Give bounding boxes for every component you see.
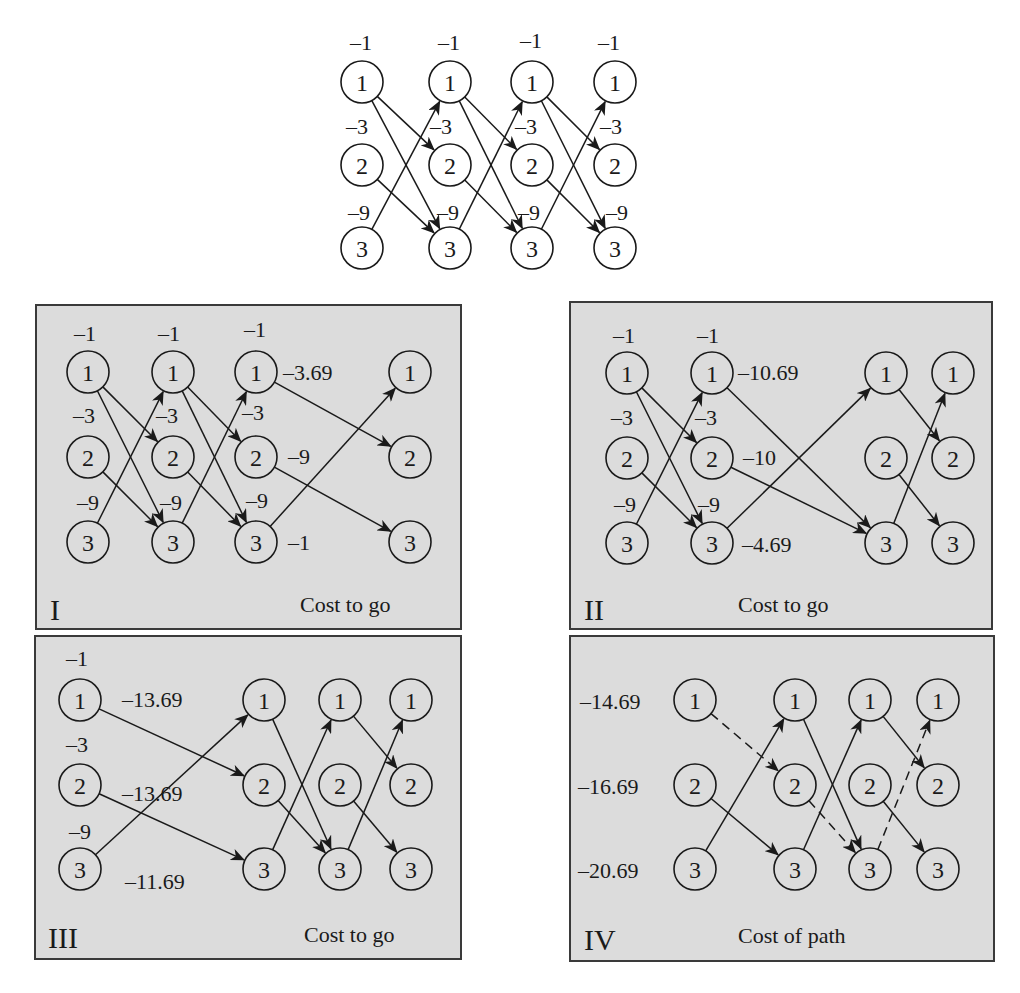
cost-label: –3 — [345, 114, 368, 139]
transition-edge — [547, 180, 600, 233]
cost-label: –1 — [73, 321, 96, 346]
node-label: 2 — [82, 445, 94, 471]
cost-label: –13.69 — [121, 687, 183, 712]
state-node: 2 — [511, 144, 553, 186]
panel-number: IV — [584, 923, 616, 956]
transition-edge — [377, 179, 434, 232]
node-label: 1 — [621, 361, 633, 387]
cost-label: –3 — [694, 405, 717, 430]
panel-frame — [36, 305, 461, 629]
trellis-diagram-figure: –1–1–1–1–3–3–3–3–9–9–9–9123123123123 –1–… — [0, 0, 1020, 993]
node-label: 1 — [167, 360, 179, 386]
node-label: 3 — [405, 857, 417, 883]
cost-label: –3 — [155, 403, 178, 428]
panel-caption: Cost to go — [304, 922, 394, 947]
transition-edge — [465, 97, 517, 149]
cost-label: –1 — [696, 323, 719, 348]
cost-label: –9 — [245, 488, 268, 513]
node-label: 3 — [706, 531, 718, 557]
cost-label: –9 — [347, 200, 370, 225]
cost-label: –11.69 — [124, 869, 185, 894]
trellis-panels: –1–1–1–3–3–3–9–9–9–3.69–9–1123123123123I… — [35, 302, 994, 961]
node-label: 2 — [167, 445, 179, 471]
cost-label: –3 — [241, 400, 264, 425]
node-label: 1 — [864, 688, 876, 714]
node-label: 1 — [405, 688, 417, 714]
node-label: 1 — [334, 688, 346, 714]
transition-edge — [377, 96, 434, 149]
node-label: 3 — [404, 530, 416, 556]
panel-IV: –14.69–16.69–20.69123123123123IVCost of … — [570, 636, 994, 961]
transition-edge — [547, 97, 600, 150]
panel-frame — [570, 302, 992, 629]
panel-number: II — [584, 593, 604, 626]
value-labels: –1–1–1–1–3–3–3–3–9–9–9–9 — [345, 28, 628, 225]
node-label: 2 — [864, 773, 876, 799]
cost-label: –3 — [429, 114, 452, 139]
node-label: 2 — [621, 446, 633, 472]
node-label: 1 — [789, 688, 801, 714]
state-node: 3 — [429, 227, 471, 269]
node-group: 123123123123 — [341, 61, 636, 269]
cost-label: –1 — [612, 323, 635, 348]
node-label: 3 — [621, 531, 633, 557]
cost-label: –9 — [613, 492, 636, 517]
cost-label: –9 — [159, 490, 182, 515]
cost-label: –1 — [157, 321, 180, 346]
node-label: 3 — [609, 236, 621, 262]
panel-number: I — [50, 593, 60, 626]
node-label: 1 — [880, 361, 892, 387]
node-label: 3 — [334, 857, 346, 883]
cost-label: –20.69 — [577, 858, 639, 883]
panel-caption: Cost to go — [300, 592, 390, 617]
cost-label: –1 — [597, 30, 620, 55]
state-node: 1 — [594, 61, 636, 103]
node-label: 1 — [526, 70, 538, 96]
node-label: 3 — [167, 530, 179, 556]
node-label: 2 — [404, 445, 416, 471]
node-label: 3 — [947, 531, 959, 557]
node-label: 1 — [947, 361, 959, 387]
node-label: 2 — [526, 153, 538, 179]
node-label: 3 — [789, 857, 801, 883]
state-node: 1 — [429, 61, 471, 103]
cost-label: –9 — [68, 819, 91, 844]
cost-label: –3 — [65, 732, 88, 757]
node-label: 1 — [250, 360, 262, 386]
node-label: 1 — [258, 688, 270, 714]
cost-label: –9 — [697, 492, 720, 517]
panel-II: –1–1–3–3–9–9–10.69–10–4.69123123123123II… — [570, 302, 992, 629]
cost-label: –3 — [514, 114, 537, 139]
node-label: 2 — [444, 153, 456, 179]
cost-label: –1 — [519, 28, 542, 53]
transition-edge — [465, 180, 517, 232]
cost-label: –10.69 — [737, 360, 799, 385]
node-label: 2 — [880, 446, 892, 472]
cost-label: –10 — [742, 445, 776, 470]
node-label: 1 — [932, 688, 944, 714]
panel-caption: Cost to go — [738, 592, 828, 617]
node-label: 3 — [356, 236, 368, 262]
node-label: 3 — [258, 857, 270, 883]
panel-III: –1–3–9–13.69–13.69–11.69123123123123IIIC… — [35, 636, 461, 959]
state-node: 2 — [429, 144, 471, 186]
state-node: 1 — [341, 61, 383, 103]
node-label: 2 — [947, 446, 959, 472]
cost-label: –9 — [605, 200, 628, 225]
node-label: 1 — [82, 360, 94, 386]
node-label: 2 — [932, 773, 944, 799]
panel-caption: Cost of path — [738, 923, 846, 948]
cost-label: –1 — [243, 317, 266, 342]
cost-label: –3 — [72, 403, 95, 428]
cost-label: –16.69 — [577, 774, 639, 799]
cost-label: –1 — [65, 646, 88, 671]
trellis-top: –1–1–1–1–3–3–3–3–9–9–9–9123123123123 — [341, 28, 636, 269]
edge-group — [372, 96, 605, 232]
cost-label: –1 — [349, 30, 372, 55]
node-label: 3 — [444, 236, 456, 262]
node-label: 1 — [444, 70, 456, 96]
cost-label: –3 — [599, 114, 622, 139]
node-label: 3 — [82, 530, 94, 556]
panel-I: –1–1–1–3–3–3–9–9–9–3.69–9–1123123123123I… — [36, 305, 461, 629]
node-label: 3 — [932, 857, 944, 883]
